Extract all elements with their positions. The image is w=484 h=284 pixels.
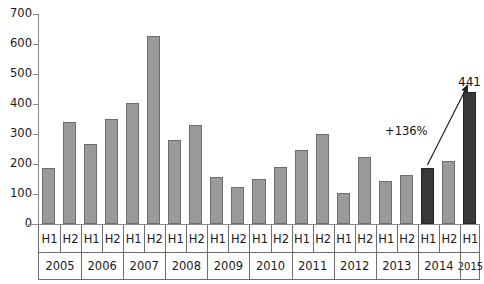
cell-separator [228, 225, 229, 252]
cell-separator [292, 225, 293, 252]
cell-separator [165, 225, 166, 252]
cell-separator [81, 252, 82, 280]
half-year-cell: H2 [144, 225, 165, 252]
bar-chart: 0100200300400500600700 +136% 441 H1H2H1H… [0, 0, 484, 284]
y-tick-label: 500 [0, 68, 32, 80]
bar[interactable] [126, 103, 139, 224]
half-year-row: H1H2H1H2H1H2H1H2H1H2H1H2H1H2H1H2H1H2H1H2… [39, 225, 479, 252]
bar[interactable] [379, 181, 392, 224]
cell-separator [186, 225, 187, 252]
bar[interactable] [316, 134, 329, 224]
year-row: 2005200620072008200920102011201220132014… [39, 252, 479, 280]
cell-separator [102, 225, 103, 252]
half-year-cell: H1 [334, 225, 355, 252]
cell-separator [207, 225, 208, 252]
cell-separator [60, 225, 61, 252]
cell-separator [460, 225, 461, 252]
cell-separator [165, 252, 166, 280]
y-tick-label: 200 [0, 158, 32, 170]
year-cell: 2011 [292, 252, 334, 280]
year-cell: 2012 [334, 252, 376, 280]
bar[interactable] [442, 161, 455, 224]
half-year-cell: H1 [165, 225, 186, 252]
cell-separator [123, 252, 124, 280]
bar[interactable] [337, 193, 350, 225]
half-year-cell: H2 [313, 225, 334, 252]
year-cell: 2013 [376, 252, 418, 280]
bar[interactable] [400, 175, 413, 224]
half-year-cell: H1 [207, 225, 228, 252]
y-axis: 0100200300400500600700 [0, 0, 32, 284]
y-tick-mark [33, 134, 38, 135]
year-cell: 2005 [39, 252, 81, 280]
cell-separator [271, 225, 272, 252]
half-year-cell: H1 [376, 225, 397, 252]
bar[interactable] [147, 36, 160, 224]
half-year-cell: H2 [102, 225, 123, 252]
cell-separator [144, 225, 145, 252]
y-tick-mark [33, 194, 38, 195]
cell-separator [249, 225, 250, 252]
cell-separator [313, 225, 314, 252]
half-year-cell: H2 [228, 225, 249, 252]
plot-area [38, 14, 480, 224]
cell-separator [418, 225, 419, 252]
cell-separator [334, 252, 335, 280]
half-year-cell: H2 [271, 225, 292, 252]
y-tick-label: 400 [0, 98, 32, 110]
bar[interactable] [105, 119, 118, 224]
y-tick-label: 600 [0, 38, 32, 50]
bar[interactable] [252, 179, 265, 224]
cell-separator [376, 225, 377, 252]
half-year-cell: H2 [60, 225, 81, 252]
half-year-cell: H1 [460, 225, 481, 252]
bar[interactable] [42, 168, 55, 224]
cell-separator [123, 225, 124, 252]
half-year-cell: H2 [439, 225, 460, 252]
bar[interactable] [168, 140, 181, 224]
growth-percent-label: +136% [385, 126, 428, 138]
y-tick-mark [33, 14, 38, 15]
cell-separator [439, 225, 440, 252]
bar[interactable] [63, 122, 76, 224]
cell-separator [460, 252, 461, 280]
cell-separator [249, 252, 250, 280]
year-cell: 2014 [418, 252, 460, 280]
y-tick-label: 100 [0, 188, 32, 200]
y-tick-mark [33, 44, 38, 45]
year-cell: 2008 [165, 252, 207, 280]
cell-separator [355, 225, 356, 252]
year-cell: 2015 [460, 252, 481, 280]
axis-label-table: H1H2H1H2H1H2H1H2H1H2H1H2H1H2H1H2H1H2H1H2… [38, 225, 480, 280]
cell-separator [207, 252, 208, 280]
cell-separator [418, 252, 419, 280]
year-cell: 2009 [207, 252, 249, 280]
half-year-cell: H2 [355, 225, 376, 252]
cell-separator [376, 252, 377, 280]
bar[interactable] [274, 167, 287, 224]
year-cell: 2007 [123, 252, 165, 280]
y-tick-mark [33, 104, 38, 105]
half-year-cell: H1 [81, 225, 102, 252]
half-year-cell: H1 [39, 225, 60, 252]
half-year-cell: H2 [186, 225, 207, 252]
year-cell: 2010 [249, 252, 291, 280]
bar[interactable] [463, 92, 476, 224]
bar-value-label-2015-h1: 441 [455, 76, 483, 88]
y-tick-label: 700 [0, 8, 32, 20]
bar[interactable] [358, 157, 371, 224]
bar[interactable] [210, 177, 223, 224]
bar[interactable] [189, 125, 202, 224]
cell-separator [334, 225, 335, 252]
half-year-cell: H1 [123, 225, 144, 252]
half-year-cell: H2 [397, 225, 418, 252]
y-tick-mark [33, 74, 38, 75]
bar[interactable] [84, 144, 97, 224]
cell-separator [292, 252, 293, 280]
y-tick-mark [33, 164, 38, 165]
half-year-cell: H1 [418, 225, 439, 252]
bar[interactable] [231, 187, 244, 224]
cell-separator [81, 225, 82, 252]
bar[interactable] [295, 150, 308, 224]
bar[interactable] [421, 168, 434, 224]
